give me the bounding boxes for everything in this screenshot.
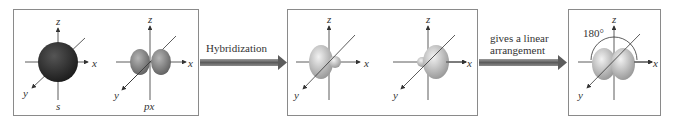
s-orbital-sphere <box>38 42 78 82</box>
linear-lobe-right <box>611 48 635 80</box>
linear-arrangement-arrow <box>479 55 567 70</box>
axis-label-z: z <box>612 14 616 25</box>
axis-label-y: y <box>294 90 299 101</box>
orbital-label-px: px <box>144 101 154 112</box>
axis-label-z: z <box>56 16 60 27</box>
axis-label-y: y <box>23 88 28 99</box>
sp-hybrid-1-small-lobe <box>329 56 341 68</box>
px-orbital-axes <box>116 26 186 100</box>
axis-label-x: x <box>188 58 193 69</box>
axis-label-y: y <box>578 90 583 101</box>
axis-label-y: y <box>114 90 119 101</box>
hybridization-arrow <box>200 55 287 70</box>
orbital-label-s: s <box>56 101 60 112</box>
px-lobe-right <box>151 49 171 75</box>
linear-arrangement-label-line2: arrangement <box>490 44 545 56</box>
linear-arrangement-label-line1: gives a linear <box>490 32 549 44</box>
px-lobe-left <box>130 49 150 75</box>
axis-label-x: x <box>364 58 369 69</box>
angle-label-180: 180° <box>583 27 604 39</box>
axis-label-x: x <box>92 58 97 69</box>
axis-label-z: z <box>426 14 430 25</box>
axis-label-z: z <box>327 14 331 25</box>
axis-label-y: y <box>393 90 398 101</box>
axis-label-z: z <box>148 14 152 25</box>
hybridization-label: Hybridization <box>206 42 267 54</box>
axis-label-x: x <box>653 58 658 69</box>
axis-label-x: x <box>467 58 472 69</box>
sp-hybrid-2-large-lobe <box>423 45 449 79</box>
orbital-diagram-graphics <box>0 0 677 120</box>
